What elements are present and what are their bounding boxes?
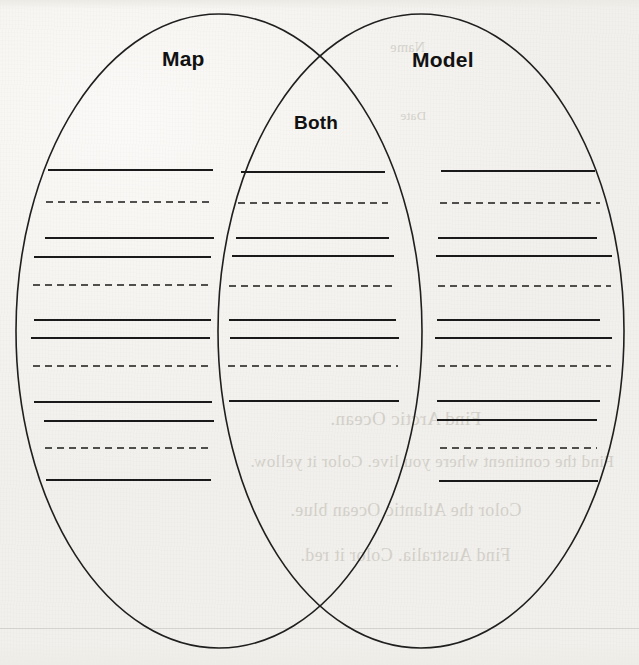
venn-ellipses bbox=[16, 14, 624, 648]
worksheet-page: Find Arctic Ocean.Find the continent whe… bbox=[0, 0, 639, 665]
venn-diagram bbox=[0, 0, 639, 665]
label-model: Model bbox=[412, 48, 474, 72]
writing-lines-middle-section bbox=[228, 172, 399, 401]
right-circle-model bbox=[218, 14, 624, 648]
label-map: Map bbox=[162, 47, 205, 71]
label-both: Both bbox=[294, 112, 338, 134]
left-circle-map bbox=[16, 14, 422, 648]
writing-lines-left-section bbox=[31, 170, 214, 480]
writing-lines-right-section bbox=[435, 171, 612, 481]
